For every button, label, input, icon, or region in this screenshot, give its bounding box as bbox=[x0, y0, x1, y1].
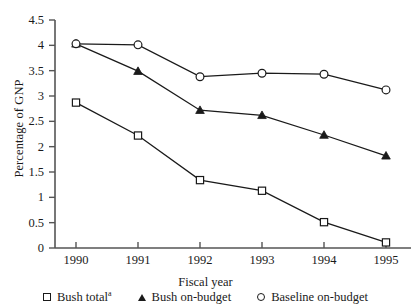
data-point-circle bbox=[382, 86, 390, 94]
x-axis-title: Fiscal year bbox=[0, 275, 411, 290]
data-point-circle bbox=[72, 40, 80, 48]
series-line-filled-triangle bbox=[76, 44, 386, 156]
data-point-square bbox=[134, 132, 141, 139]
y-tick-label: 1.5 bbox=[4, 166, 44, 179]
legend-footnote-marker: a bbox=[108, 289, 112, 298]
legend-item: Bush on-budget bbox=[138, 291, 232, 304]
data-point-circle bbox=[320, 70, 328, 78]
data-point-square bbox=[320, 219, 327, 226]
filled-triangle-marker-icon bbox=[138, 294, 146, 301]
chart-figure: Percentage of GNP Fiscal year Bush total… bbox=[0, 0, 411, 308]
data-point-triangle bbox=[134, 67, 143, 75]
y-tick-label: 2.5 bbox=[4, 115, 44, 128]
legend-item-label: Baseline on-budget bbox=[271, 291, 368, 304]
x-tick-label: 1992 bbox=[170, 254, 230, 267]
data-point-square bbox=[382, 239, 389, 246]
chart-legend: Bush totalaBush on-budgetBaseline on-bud… bbox=[0, 291, 411, 304]
data-point-square bbox=[72, 99, 79, 106]
legend-item-label: Bush totala bbox=[57, 291, 112, 304]
data-point-circle bbox=[134, 41, 142, 49]
data-point-circle bbox=[258, 69, 266, 77]
cropped-title-remnant bbox=[150, 0, 260, 5]
y-tick-label: 0.5 bbox=[4, 217, 44, 230]
y-tick-label: 2 bbox=[4, 141, 44, 154]
y-tick-label: 3 bbox=[4, 90, 44, 103]
open-square-marker-icon bbox=[43, 293, 51, 301]
x-tick-label: 1995 bbox=[356, 254, 411, 267]
data-point-square bbox=[196, 177, 203, 184]
legend-item-label: Bush on-budget bbox=[152, 291, 232, 304]
series-line-open-square bbox=[76, 103, 386, 243]
y-tick-label: 3.5 bbox=[4, 65, 44, 78]
data-point-triangle bbox=[196, 106, 205, 114]
y-tick-label: 0 bbox=[4, 242, 44, 255]
legend-item: Bush totala bbox=[43, 291, 112, 304]
x-tick-label: 1991 bbox=[108, 254, 168, 267]
legend-item: Baseline on-budget bbox=[257, 291, 368, 304]
y-tick-label: 4 bbox=[4, 39, 44, 52]
open-circle-marker-icon bbox=[257, 293, 265, 301]
x-tick-label: 1993 bbox=[232, 254, 292, 267]
series-line-open-circle bbox=[76, 44, 386, 90]
data-point-circle bbox=[196, 73, 204, 81]
x-tick-label: 1990 bbox=[46, 254, 106, 267]
y-tick-label: 4.5 bbox=[4, 14, 44, 27]
y-tick-label: 1 bbox=[4, 191, 44, 204]
x-tick-label: 1994 bbox=[294, 254, 354, 267]
data-point-square bbox=[258, 187, 265, 194]
